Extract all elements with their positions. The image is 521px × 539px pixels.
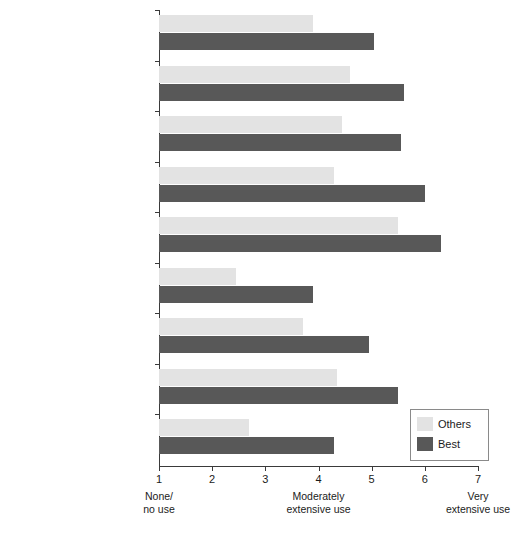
chart-row: Formalized processes to select purchased… bbox=[159, 10, 478, 61]
x-axis-tick bbox=[425, 466, 426, 471]
x-axis-tick bbox=[319, 466, 320, 471]
bar-best bbox=[159, 84, 404, 101]
plot-area: Formalized processes to select purchased… bbox=[159, 10, 478, 465]
y-axis-tick bbox=[155, 111, 159, 112]
x-axis-tick bbox=[372, 466, 373, 471]
bar-others bbox=[159, 369, 337, 386]
y-axis-tick bbox=[155, 212, 159, 213]
y-axis-tick bbox=[155, 313, 159, 314]
x-axis-anchor-label: Very extensive use bbox=[418, 490, 521, 515]
x-axis-tick-label: 2 bbox=[200, 473, 224, 485]
bar-others bbox=[159, 318, 303, 335]
bar-best bbox=[159, 286, 313, 303]
x-axis-tick-label: 7 bbox=[466, 473, 490, 485]
x-axis-anchor-label: Moderately extensive use bbox=[259, 490, 379, 515]
legend-swatch-best-icon bbox=[417, 437, 433, 451]
x-axis-tick bbox=[212, 466, 213, 471]
x-axis-tick-label: 3 bbox=[253, 473, 277, 485]
x-axis-tick-label: 6 bbox=[413, 473, 437, 485]
chart-row: Formal business unit trust development e… bbox=[159, 313, 478, 364]
y-axis-tick bbox=[155, 263, 159, 264]
chart-row: Co-location of buyer and supplier compan… bbox=[159, 263, 478, 314]
chart-row: Supplier membership and participation on… bbox=[159, 162, 478, 213]
x-axis-tick bbox=[159, 466, 160, 471]
chart-row: Sharing of technology between buyer and … bbox=[159, 364, 478, 415]
bar-best bbox=[159, 336, 369, 353]
y-axis-tick bbox=[155, 10, 159, 11]
bar-others bbox=[159, 217, 398, 234]
legend-swatch-others-icon bbox=[417, 417, 433, 431]
y-axis-tick bbox=[155, 364, 159, 365]
bar-others bbox=[159, 66, 350, 83]
bar-best bbox=[159, 134, 401, 151]
bar-best bbox=[159, 235, 441, 252]
chart-legend: Others Best bbox=[410, 409, 489, 461]
bar-best bbox=[159, 387, 398, 404]
bar-others bbox=[159, 419, 249, 436]
x-axis-tick-label: 1 bbox=[147, 473, 171, 485]
chart-row: Direct cross-functional intercompany com… bbox=[159, 212, 478, 263]
legend-label-others: Others bbox=[438, 416, 471, 432]
bar-others bbox=[159, 116, 342, 133]
bar-best bbox=[159, 33, 374, 50]
legend-label-best: Best bbox=[438, 436, 460, 452]
bar-chart: Formalized processes to select purchased… bbox=[0, 0, 521, 539]
bar-others bbox=[159, 15, 313, 32]
x-axis-tick bbox=[478, 466, 479, 471]
bar-best bbox=[159, 185, 425, 202]
bar-others bbox=[159, 268, 236, 285]
y-axis-tick bbox=[155, 162, 159, 163]
chart-row: Early supplier selection for both design… bbox=[159, 111, 478, 162]
y-axis-tick bbox=[155, 414, 159, 415]
bar-best bbox=[159, 437, 334, 454]
x-axis-tick bbox=[265, 466, 266, 471]
x-axis-anchor-label: None/ no use bbox=[99, 490, 219, 515]
y-axis-tick bbox=[155, 61, 159, 62]
chart-row: Cross-functional team for supplier selec… bbox=[159, 61, 478, 112]
x-axis-tick-label: 4 bbox=[307, 473, 331, 485]
x-axis-tick-label: 5 bbox=[360, 473, 384, 485]
bar-others bbox=[159, 167, 334, 184]
